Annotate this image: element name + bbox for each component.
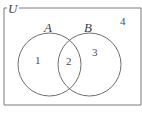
region-1-label: 1 (35, 55, 41, 66)
set-b-label: B (84, 21, 92, 34)
region-2-label: 2 (66, 56, 72, 67)
region-4-label: 4 (120, 16, 126, 27)
region-3-label: 3 (92, 47, 98, 58)
set-a-circle (18, 33, 81, 96)
universe-label: U (8, 2, 17, 15)
venn-diagram-figure: U A B 1 2 3 4 (0, 0, 142, 116)
set-a-label: A (44, 21, 52, 34)
